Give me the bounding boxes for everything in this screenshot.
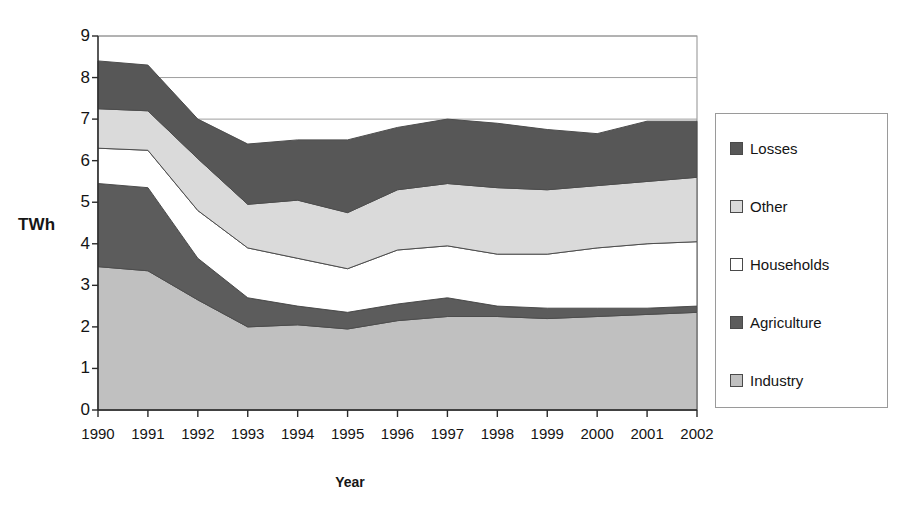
legend: LossesOtherHouseholdsAgricultureIndustry [715, 113, 888, 408]
legend-item: Agriculture [730, 312, 822, 332]
legend-item-label: Industry [750, 372, 803, 389]
x-axis-tick-label: 1996 [371, 424, 425, 444]
x-axis-tick-label: 1990 [71, 424, 125, 444]
legend-item-label: Agriculture [750, 314, 822, 331]
legend-item-label: Households [750, 256, 829, 273]
x-axis-tick-label: 2000 [570, 424, 624, 444]
legend-swatch-icon [730, 258, 743, 271]
legend-item: Industry [730, 370, 803, 390]
legend-item: Other [730, 196, 788, 216]
x-axis-title: Year [0, 474, 700, 490]
legend-item: Losses [730, 138, 798, 158]
x-axis-tick-labels: 1990199119921993199419951996199719981999… [0, 424, 912, 450]
legend-item: Households [730, 254, 829, 274]
x-axis-tick-label: 2001 [620, 424, 674, 444]
x-axis-tick-label: 1998 [470, 424, 524, 444]
legend-swatch-icon [730, 374, 743, 387]
x-axis-tick-label: 1992 [171, 424, 225, 444]
x-axis-tick-label: 1993 [221, 424, 275, 444]
x-axis-tick-label: 2002 [670, 424, 724, 444]
x-axis-tick-label: 1995 [321, 424, 375, 444]
x-axis-tick-label: 1997 [420, 424, 474, 444]
x-axis-tick-label: 1994 [271, 424, 325, 444]
x-axis-tick-label: 1991 [121, 424, 175, 444]
legend-item-label: Other [750, 198, 788, 215]
legend-swatch-icon [730, 200, 743, 213]
stacked-area-chart: TWh 9876543210 1990199119921993199419951… [0, 0, 912, 518]
legend-item-label: Losses [750, 140, 798, 157]
legend-swatch-icon [730, 316, 743, 329]
x-axis-tick-label: 1999 [520, 424, 574, 444]
legend-swatch-icon [730, 142, 743, 155]
